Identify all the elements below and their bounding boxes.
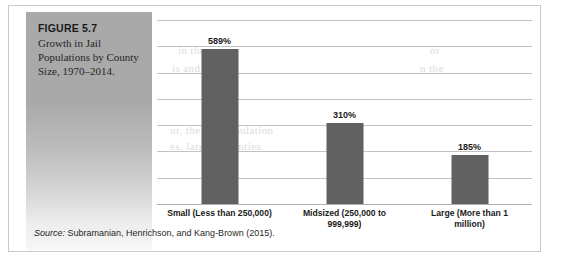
x-axis-label-line: Small (Less than 250,000) (157, 208, 282, 219)
figure-caption-text: Growth in Jail Populations by County Siz… (38, 36, 142, 78)
x-axis-label: Midsized (250,000 to999,999) (282, 208, 407, 230)
plot-area: 589%310%185% (157, 20, 532, 204)
bar-value-label: 185% (458, 142, 481, 152)
bar-group: 185% (407, 20, 532, 204)
figure-scan-page: in the is and by or n the ur, the jail p… (0, 0, 566, 266)
figure-number-label: FIGURE 5.7 (38, 22, 142, 34)
source-note: Source: Subramanian, Henrichson, and Kan… (34, 228, 275, 238)
x-axis-label-line: million) (407, 219, 532, 230)
x-axis-label-line: Midsized (250,000 to (282, 208, 407, 219)
bar-chart: 589%310%185% Small (Less than 250,000)Mi… (152, 12, 538, 250)
bar (326, 123, 363, 204)
bar-group: 589% (157, 20, 282, 204)
bar-group: 310% (282, 20, 407, 204)
axis-baseline (157, 204, 532, 205)
source-label: Source: (34, 228, 65, 238)
x-axis-label: Small (Less than 250,000) (157, 208, 282, 219)
caption-text-block: FIGURE 5.7 Growth in Jail Populations by… (38, 22, 142, 78)
bars-layer: 589%310%185% (157, 20, 532, 204)
x-axis-label: Large (More than 1million) (407, 208, 532, 230)
bar-value-label: 589% (208, 36, 231, 46)
x-axis-label-line: Large (More than 1 (407, 208, 532, 219)
bar (451, 155, 488, 204)
bar-value-label: 310% (333, 110, 356, 120)
source-citation: Subramanian, Henrichson, and Kang-Brown … (65, 228, 275, 238)
bar (201, 49, 238, 204)
x-axis-label-line: 999,999) (282, 219, 407, 230)
